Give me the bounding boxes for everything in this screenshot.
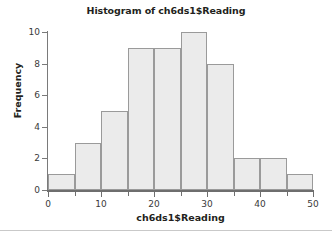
x-axis-tick-label: 0 (33, 199, 63, 209)
histogram-figure: Histogram of ch6ds1$Reading Frequency ch… (0, 0, 332, 236)
chart-title: Histogram of ch6ds1$Reading (0, 5, 332, 16)
bottom-divider (0, 230, 332, 231)
x-axis-minor-tick (287, 192, 288, 196)
histogram-bar (48, 174, 75, 190)
y-axis-tick (42, 95, 47, 96)
y-axis-tick (42, 32, 47, 33)
histogram-bar (207, 64, 234, 190)
x-axis-tick-label: 20 (139, 199, 169, 209)
x-axis-tick-label: 10 (86, 199, 116, 209)
x-axis-tick (48, 192, 49, 197)
histogram-bar (260, 158, 287, 190)
x-axis-minor-tick (234, 192, 235, 196)
x-axis-tick-label: 40 (245, 199, 275, 209)
histogram-bar (154, 48, 181, 190)
x-axis-tick-label: 50 (298, 199, 328, 209)
histogram-bar (287, 174, 314, 190)
x-axis-minor-tick (181, 192, 182, 196)
y-axis-tick (42, 127, 47, 128)
x-axis-minor-tick (75, 192, 76, 196)
x-axis-tick-label: 30 (192, 199, 222, 209)
x-axis-tick (101, 192, 102, 197)
y-axis-line (47, 31, 48, 191)
y-axis-tick (42, 64, 47, 65)
x-axis-tick (154, 192, 155, 197)
y-axis-tick-label: 6 (14, 90, 40, 100)
y-axis-tick-label: 8 (14, 59, 40, 69)
y-axis-tick-label: 2 (14, 153, 40, 163)
plot-area (48, 32, 313, 190)
histogram-bar (128, 48, 155, 190)
x-axis-tick (207, 192, 208, 197)
histogram-bar (234, 158, 261, 190)
histogram-bar (181, 32, 208, 190)
y-axis-tick-label: 0 (14, 185, 40, 195)
x-axis-tick (313, 192, 314, 197)
x-axis-label: ch6ds1$Reading (48, 212, 313, 223)
y-axis-tick (42, 190, 47, 191)
x-axis-minor-tick (128, 192, 129, 196)
histogram-bar (75, 143, 102, 190)
y-axis-tick (42, 158, 47, 159)
x-axis-tick (260, 192, 261, 197)
y-axis-tick-label: 4 (14, 122, 40, 132)
y-axis-tick-label: 10 (14, 27, 40, 37)
histogram-bar (101, 111, 128, 190)
